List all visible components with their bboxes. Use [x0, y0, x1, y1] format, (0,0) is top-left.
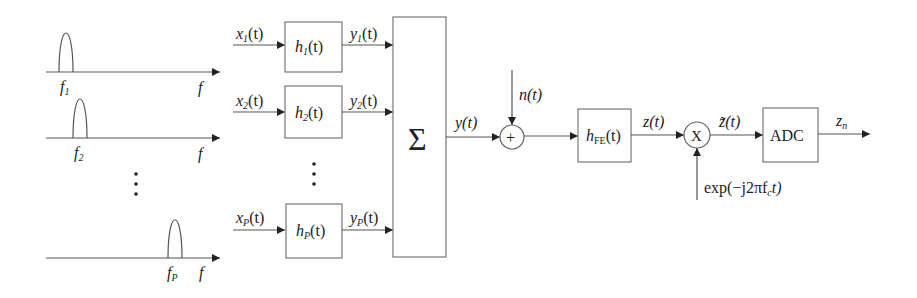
filter-label: hP(t) [296, 222, 325, 241]
noise-adder: n(t) + [500, 70, 542, 149]
output-signal-label: y1(t) [348, 25, 377, 44]
oscillator-label: exp(−j2πfct) [704, 179, 782, 198]
frontend-output: z(t) [631, 113, 684, 135]
input-signal-label: x2(t) [235, 92, 263, 111]
output-label: zn [835, 112, 847, 131]
spectrum-band-P: fP f [46, 220, 220, 283]
center-freq-label: f2 [74, 144, 83, 163]
output-signal-label: y2(t) [348, 92, 377, 111]
adc-block: ADC [763, 108, 818, 162]
mixer-output: z̃(t) [710, 113, 763, 135]
freq-axis-label: f [198, 79, 205, 97]
filter-branch-P: xP(t) hP(t) yP(t) [233, 204, 393, 258]
filter-label: h1(t) [295, 38, 323, 57]
mixer-output-label: z̃(t) [718, 113, 740, 131]
multiply-symbol: X [691, 128, 702, 144]
filter-branch-1: x1(t) h1(t) y1(t) [233, 22, 393, 72]
frontend-output-label: z(t) [642, 113, 664, 131]
filter-ellipsis [312, 162, 316, 186]
adc-output: zn [818, 112, 870, 134]
input-signal-label: xP(t) [235, 209, 264, 228]
summation-block: Σ [393, 17, 446, 257]
input-signal-label: x1(t) [235, 25, 263, 44]
adc-label: ADC [770, 127, 804, 144]
filter-label: h2(t) [295, 104, 323, 123]
center-freq-label: fP [167, 264, 178, 283]
freq-axis-label: f [198, 145, 205, 163]
sigma-symbol: Σ [408, 121, 427, 157]
noise-label: n(t) [519, 86, 542, 104]
filter-branch-2: x2(t) h2(t) y2(t) [233, 86, 393, 138]
plus-symbol: + [506, 129, 515, 146]
sum-output-label: y(t) [453, 114, 477, 132]
frontend-filter: hFE(t) [578, 109, 631, 162]
center-freq-label: f1 [60, 78, 69, 97]
block-diagram: f1 f f2 f fP f x1(t) h1(t) y1(t) x2(t) h… [0, 0, 917, 298]
freq-axis-label: f [199, 264, 206, 282]
spectrum-band-2: f2 f [46, 99, 220, 163]
spectrum-ellipsis [134, 172, 138, 196]
output-signal-label: yP(t) [348, 209, 378, 228]
sum-output: y(t) [446, 114, 500, 137]
spectrum-band-1: f1 f [46, 33, 220, 97]
